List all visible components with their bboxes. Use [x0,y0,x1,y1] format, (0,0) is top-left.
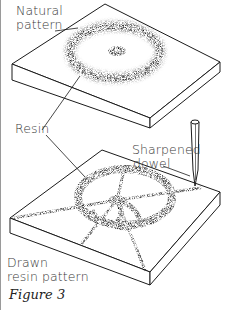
label-dowel-line1: Sharpened [132,143,201,157]
label-drawn-line2: resin pattern [7,270,89,284]
figure-caption: Figure 3 [9,287,65,302]
label-resin: Resin [15,122,49,136]
label-dowel-line2: dowel [133,157,170,171]
figure-3-illustration: Natural pattern Resin Sharpened dowel Dr… [0,0,225,310]
label-natural-line1: Natural [16,4,63,18]
label-drawn-line1: Drawn [7,256,48,270]
label-natural-line2: pattern [16,18,63,32]
